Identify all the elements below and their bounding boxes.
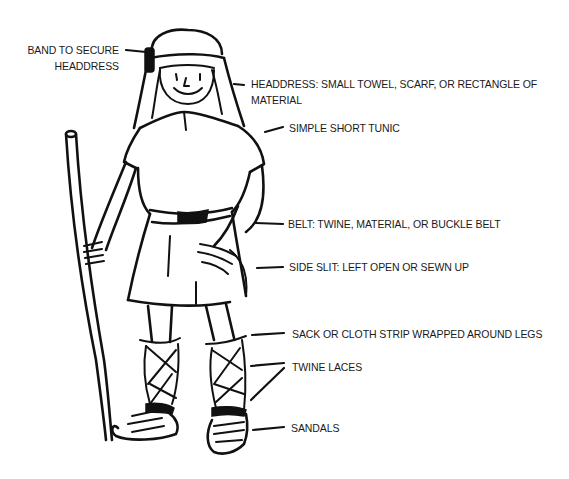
label-band: BAND TO SECURE HEADDRESS — [6, 42, 119, 74]
label-headdress-line1: HEADDRESS: SMALL TOWEL, SCARF, OR RECTAN… — [251, 76, 537, 92]
tunic-drawing — [124, 112, 264, 306]
costume-diagram: BAND TO SECURE HEADDRESS HEADDRESS: SMAL… — [0, 0, 569, 479]
sandals-drawing — [112, 403, 247, 453]
face-drawing — [160, 65, 214, 104]
label-headdress: HEADDRESS: SMALL TOWEL, SCARF, OR RECTAN… — [251, 76, 537, 108]
leader-band — [126, 50, 146, 52]
leader-belt — [256, 223, 283, 224]
label-belt: BELT: TWINE, MATERIAL, OR BUCKLE BELT — [288, 216, 501, 232]
leader-side-slit — [257, 267, 283, 268]
legs-drawing — [140, 304, 246, 410]
leader-tunic — [265, 127, 283, 132]
label-band-line2: HEADDRESS — [6, 58, 119, 74]
leader-headdress — [234, 84, 244, 85]
label-leg-wrap: SACK OR CLOTH STRIP WRAPPED AROUND LEGS — [292, 326, 542, 342]
label-laces: TWINE LACES — [292, 359, 362, 375]
label-side-slit: SIDE SLIT: LEFT OPEN OR SEWN UP — [289, 259, 469, 275]
label-sandals: SANDALS — [291, 420, 339, 436]
leader-leg-wrap — [252, 333, 284, 335]
leader-laces-2 — [251, 368, 284, 400]
label-headdress-line2: MATERIAL — [251, 92, 537, 108]
leader-laces-1 — [251, 363, 284, 366]
label-tunic: SIMPLE SHORT TUNIC — [289, 120, 400, 136]
staff-drawing — [66, 131, 112, 440]
belt-drawing — [150, 208, 232, 224]
leader-sandals — [253, 427, 284, 430]
label-band-line1: BAND TO SECURE — [6, 42, 119, 58]
